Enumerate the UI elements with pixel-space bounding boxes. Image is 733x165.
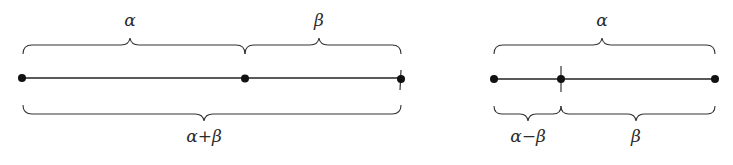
brace-alpha-top-right	[494, 38, 715, 54]
brace-alpha-top	[23, 38, 245, 54]
point-right-start	[490, 75, 498, 83]
point-left-mid	[241, 75, 249, 83]
brace-beta-top	[245, 38, 401, 54]
label-alpha-top-right: α	[596, 10, 608, 30]
diagram-canvas: α β α+β α α−β β	[0, 0, 733, 165]
brace-diff-bottom	[494, 106, 561, 121]
label-diff-bottom: α−β	[510, 126, 546, 146]
label-alpha-top: α	[124, 10, 136, 30]
label-beta-bottom: β	[630, 126, 641, 146]
point-right-end	[711, 75, 719, 83]
point-left-start	[18, 74, 26, 82]
point-right-mid	[557, 75, 565, 83]
label-beta-top: β	[313, 10, 324, 30]
brace-sum-bottom	[23, 105, 401, 121]
brace-beta-bottom	[561, 106, 715, 121]
label-sum-bottom: α+β	[186, 126, 222, 146]
point-left-end	[397, 75, 405, 83]
